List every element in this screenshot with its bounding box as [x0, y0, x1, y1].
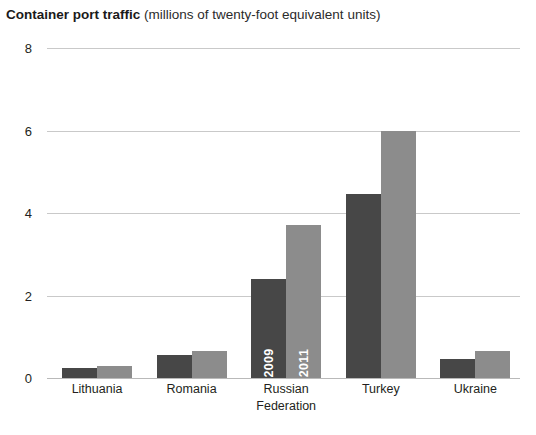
chart-page: { "title": { "main": "Container port tra…	[0, 0, 536, 435]
chart-title: Container port traffic (millions of twen…	[6, 7, 380, 23]
bar-ukraine-2011	[475, 351, 510, 378]
bar-ukraine-2009	[440, 359, 475, 378]
bar-turkey-2011	[381, 131, 416, 379]
x-tick-label-line: Federation	[226, 398, 346, 415]
bar-group-turkey	[331, 48, 431, 378]
bar-romania-2011	[192, 351, 227, 378]
bar-russian-federation-2011: 2011	[286, 225, 321, 378]
bar-group-romania	[142, 48, 242, 378]
bar-group-russian-federation: 20092011	[236, 48, 336, 378]
bar-romania-2009	[157, 355, 192, 379]
bar-label-2009: 2009	[262, 348, 276, 377]
y-tick-label-8: 8	[25, 41, 32, 56]
y-tick-label-4: 4	[25, 206, 32, 221]
y-tick-label-6: 6	[25, 123, 32, 138]
bar-group-ukraine	[425, 48, 525, 378]
gridline-0	[47, 378, 520, 379]
bar-turkey-2009	[346, 194, 381, 378]
bar-label-2011: 2011	[297, 349, 311, 377]
bar-lithuania-2011	[97, 366, 132, 378]
bar-russian-federation-2009: 2009	[251, 279, 286, 378]
y-axis: 02468	[0, 48, 40, 378]
x-tick-label-ukraine: Ukraine	[415, 381, 535, 398]
y-tick-label-0: 0	[25, 371, 32, 386]
y-tick-label-2: 2	[25, 288, 32, 303]
bar-group-lithuania	[47, 48, 147, 378]
chart-title-subtitle: (millions of twenty-foot equivalent unit…	[144, 7, 380, 22]
plot-area: 20092011	[47, 48, 520, 378]
chart-title-main: Container port traffic	[6, 7, 140, 22]
x-axis: LithuaniaRomaniaRussianFederationTurkeyU…	[47, 381, 520, 433]
x-tick-label-line: Ukraine	[415, 381, 535, 398]
bar-lithuania-2009	[62, 368, 97, 378]
bar-series-container: 20092011	[47, 48, 520, 378]
